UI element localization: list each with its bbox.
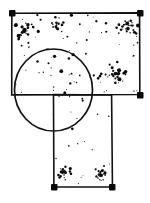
speckle-dot [74, 81, 75, 82]
speckle-dot [111, 66, 114, 69]
speckle-dot [103, 173, 104, 174]
speckle-dot [101, 180, 102, 181]
speckle-dot [69, 170, 71, 172]
speckle-dot [60, 175, 62, 177]
speckle-dot [97, 77, 100, 80]
speckle-dot [126, 27, 130, 31]
speckle-dot [103, 165, 105, 167]
speckle-dot [70, 14, 73, 17]
speckle-dot [95, 20, 97, 22]
speckle-dot [123, 24, 125, 26]
speckle-dot [14, 23, 18, 27]
speckle-dot [26, 30, 27, 31]
speckle-dot [98, 170, 100, 172]
speckle-dot [109, 75, 110, 76]
speckle-dot [114, 82, 117, 85]
speckle-dot [106, 90, 107, 91]
speckle-dot [105, 31, 107, 33]
speckle-dot [24, 55, 25, 56]
speckle-dot [93, 16, 94, 17]
speckle-dot [69, 74, 70, 75]
speckle-dot [137, 42, 139, 44]
speckle-dot [97, 177, 99, 179]
speckle-dot [89, 31, 90, 32]
speckle-dot [21, 92, 22, 93]
speckle-dot [32, 26, 35, 29]
speckle-dot [109, 64, 111, 66]
speckle-dot [124, 70, 127, 73]
line-drawing-figure [0, 0, 150, 203]
speckle-dot [28, 47, 29, 48]
speckle-dot [102, 174, 103, 175]
speckle-dot [118, 23, 121, 26]
speckle-dot [115, 27, 118, 30]
speckle-dot [130, 20, 132, 22]
speckle-dot [51, 57, 52, 58]
outline-layer [12, 13, 140, 187]
speckle-dot [71, 73, 73, 75]
top-rect-top-right [137, 10, 144, 17]
speckle-dot [118, 32, 120, 34]
speckle-dot [56, 25, 58, 27]
speckle-dot [128, 21, 129, 22]
speckle-dot [78, 183, 79, 184]
top-rect-bottom-right [137, 92, 144, 99]
speckle-dot [135, 32, 137, 34]
speckle-dot [99, 75, 102, 78]
speckle-dot [55, 158, 56, 159]
speckle-dot [25, 22, 27, 24]
speckle-dot [51, 22, 53, 24]
speckle-dot [119, 44, 120, 45]
speckle-dot [66, 89, 67, 90]
speckle-dot [63, 38, 64, 39]
speckle-dot [66, 36, 68, 38]
speckle-dot [21, 25, 24, 28]
speckle-dot [76, 118, 77, 119]
top-rectangle [12, 13, 140, 95]
speckle-dot [25, 28, 26, 29]
speckle-dot [100, 82, 101, 83]
speckle-dot [21, 35, 22, 36]
speckle-dot [53, 90, 54, 91]
speckle-dot [126, 30, 128, 32]
speckle-dot [129, 32, 131, 34]
speckle-dot [95, 168, 97, 170]
speckle-dot [82, 99, 84, 101]
speckle-dot [132, 24, 134, 26]
stem-rect-bottom-right [109, 184, 116, 191]
speckle-dot [117, 72, 120, 75]
speckle-dot [21, 45, 23, 47]
speckle-dot [107, 76, 108, 77]
speckle-dot [112, 70, 114, 72]
top-rect-top-left [9, 10, 16, 17]
speckle-dot [37, 30, 40, 33]
speckle-dot [102, 179, 104, 181]
speckle-dot [113, 75, 114, 76]
speckle-dot [133, 90, 134, 91]
speckle-dot [136, 90, 137, 91]
speckle-dot [132, 29, 134, 31]
speckle-dot [133, 55, 135, 57]
speckle-dot [81, 98, 83, 100]
speckle-dot [54, 16, 57, 19]
speckle-dot [62, 171, 63, 172]
speckle-dot [85, 53, 87, 55]
speckle-dot [104, 91, 105, 92]
speckle-dot [116, 61, 119, 64]
speckle-dot [21, 31, 24, 34]
speckle-dot [69, 96, 70, 97]
speckle-dot [99, 179, 100, 180]
speckle-dot [64, 166, 66, 168]
speckle-dot [114, 78, 116, 80]
speckle-dot [79, 75, 81, 77]
speckle-dot [100, 72, 103, 75]
speckle-dot [104, 170, 105, 171]
speckle-dot [76, 82, 78, 84]
speckle-dot [101, 32, 102, 33]
speckle-dot [57, 174, 60, 177]
speckle-dot [26, 23, 29, 26]
speckle-dot [22, 19, 23, 20]
speckle-dot [109, 163, 110, 164]
speckle-dot [27, 33, 30, 36]
speckle-dot [69, 50, 70, 51]
